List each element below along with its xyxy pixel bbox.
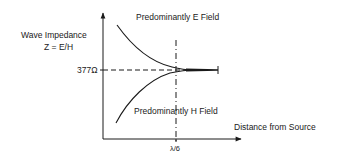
x-axis-label: Distance from Source bbox=[234, 122, 316, 132]
impedance-diagram bbox=[0, 0, 341, 159]
h-field-region-label: Predominantly H Field bbox=[134, 106, 218, 116]
y-axis-label: Wave Impedance bbox=[21, 30, 87, 40]
e-field-region-label: Predominantly E Field bbox=[136, 12, 219, 22]
y-tick-label-377: 377Ω bbox=[77, 65, 98, 75]
e-field-impedance-curve bbox=[117, 25, 192, 70]
far-field-convergence bbox=[186, 69, 218, 72]
x-tick-label-lambda-6: λ/6 bbox=[170, 144, 180, 154]
y-axis-formula: Z = E/H bbox=[44, 42, 73, 52]
